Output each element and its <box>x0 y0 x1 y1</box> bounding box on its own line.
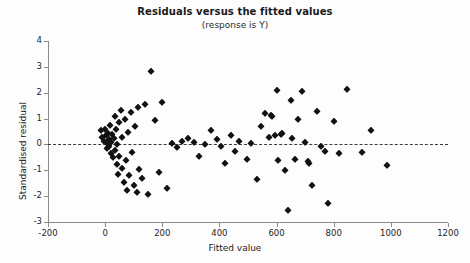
scatter-point <box>116 119 122 125</box>
x-axis-label: Fitted value <box>0 243 470 253</box>
y-tick-mark <box>44 170 48 171</box>
scatter-point <box>128 109 134 115</box>
x-tick-label: 0 <box>85 228 125 238</box>
scatter-point <box>145 190 151 196</box>
scatter-point <box>279 130 285 136</box>
scatter-point <box>343 86 349 92</box>
scatter-point <box>196 153 202 159</box>
scatter-point <box>248 140 254 146</box>
scatter-point <box>135 104 141 110</box>
scatter-point <box>129 149 135 155</box>
scatter-point <box>299 88 305 94</box>
scatter-point <box>139 175 145 181</box>
y-tick-mark <box>44 93 48 94</box>
scatter-point <box>111 113 117 119</box>
y-axis-label: Standardised residual <box>18 102 28 200</box>
scatter-point <box>148 67 154 73</box>
scatter-point <box>122 115 128 121</box>
y-tick-mark <box>44 144 48 145</box>
x-tick-label: -200 <box>28 228 68 238</box>
scatter-point <box>156 168 162 174</box>
scatter-point <box>159 99 165 105</box>
chart-screenshot: Residuals versus the fitted values (resp… <box>0 0 470 263</box>
scatter-point <box>213 136 219 142</box>
scatter-point <box>322 148 328 154</box>
scatter-point <box>113 126 119 132</box>
x-tick-label: 600 <box>257 228 297 238</box>
x-axis-line <box>48 222 448 223</box>
scatter-point <box>236 137 242 143</box>
y-tick-mark <box>44 67 48 68</box>
scatter-point <box>292 155 298 161</box>
scatter-point <box>273 87 279 93</box>
x-tick-mark <box>391 223 392 227</box>
x-tick-label: 1200 <box>428 228 468 238</box>
scatter-point <box>173 144 179 150</box>
y-axis-line <box>48 41 49 223</box>
scatter-point <box>126 172 132 178</box>
x-tick-mark <box>162 223 163 227</box>
scatter-point <box>325 199 331 205</box>
scatter-point <box>222 159 228 165</box>
scatter-point <box>115 171 121 177</box>
scatter-point <box>258 123 264 129</box>
scatter-point <box>125 128 131 134</box>
scatter-point <box>112 146 118 152</box>
scatter-point <box>118 164 124 170</box>
scatter-point <box>313 108 319 114</box>
scatter-point <box>253 176 259 182</box>
scatter-point <box>132 123 138 129</box>
x-tick-mark <box>48 223 49 227</box>
x-tick-mark <box>334 223 335 227</box>
scatter-point <box>130 181 136 187</box>
scatter-point <box>383 162 389 168</box>
scatter-point <box>288 97 294 103</box>
scatter-point <box>152 117 158 123</box>
x-tick-label: 1000 <box>371 228 411 238</box>
x-tick-mark <box>105 223 106 227</box>
scatter-point <box>336 150 342 156</box>
plot-area: -3-2-101234 -200020040060080010001200 <box>0 0 470 263</box>
x-tick-mark <box>448 223 449 227</box>
x-tick-mark <box>219 223 220 227</box>
scatter-point <box>359 149 365 155</box>
scatter-point <box>295 115 301 121</box>
scatter-point <box>123 186 129 192</box>
scatter-point <box>136 166 142 172</box>
y-tick-label: 2 <box>16 87 42 97</box>
scatter-point <box>306 159 312 165</box>
scatter-point <box>118 106 124 112</box>
y-tick-label: 3 <box>16 61 42 71</box>
scatter-point <box>119 133 125 139</box>
scatter-point <box>269 113 275 119</box>
scatter-point <box>243 155 249 161</box>
scatter-point <box>232 148 238 154</box>
x-tick-label: 200 <box>142 228 182 238</box>
scatter-point <box>116 153 122 159</box>
y-tick-label: -3 <box>16 216 42 226</box>
y-tick-label: 4 <box>16 35 42 45</box>
scatter-point <box>163 185 169 191</box>
x-tick-mark <box>277 223 278 227</box>
scatter-point <box>309 181 315 187</box>
scatter-point <box>275 157 281 163</box>
scatter-point <box>120 179 126 185</box>
scatter-point <box>133 189 139 195</box>
y-tick-mark <box>44 41 48 42</box>
scatter-point <box>368 127 374 133</box>
scatter-point <box>208 127 214 133</box>
scatter-point <box>282 167 288 173</box>
scatter-point <box>202 141 208 147</box>
scatter-point <box>330 118 336 124</box>
scatter-point <box>142 101 148 107</box>
x-tick-label: 400 <box>199 228 239 238</box>
y-tick-mark <box>44 196 48 197</box>
scatter-point <box>228 132 234 138</box>
scatter-point <box>122 157 128 163</box>
scatter-point <box>289 135 295 141</box>
y-tick-mark <box>44 119 48 120</box>
x-tick-label: 800 <box>314 228 354 238</box>
scatter-point <box>185 135 191 141</box>
scatter-point <box>285 207 291 213</box>
